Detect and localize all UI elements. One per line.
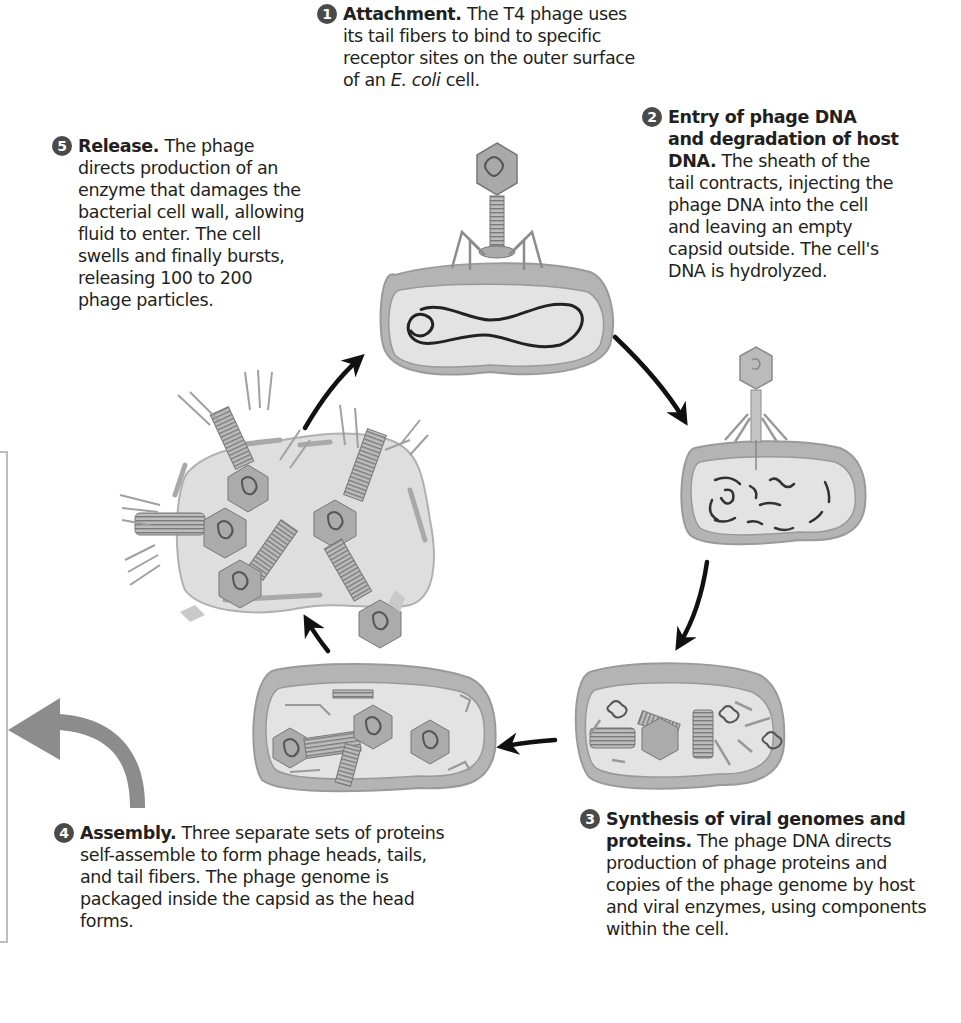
cell-attachment <box>381 143 614 375</box>
cell-assembly <box>253 664 495 791</box>
step-badge-2: 2 <box>642 107 662 127</box>
phage-attached-icon <box>452 143 542 270</box>
step-badge-1: 1 <box>317 4 337 24</box>
cell-entry <box>681 347 865 544</box>
big-curved-arrow-icon <box>8 698 145 808</box>
step-badge-4: 4 <box>54 823 74 843</box>
e-coli-term: E. coli <box>391 70 441 90</box>
caption-entry: 2 Entry of phage DNA and degradation of … <box>668 106 961 282</box>
step-badge-5: 5 <box>52 136 72 156</box>
arrow-3-to-4 <box>505 740 555 746</box>
arrow-5-to-1 <box>305 360 358 428</box>
caption-assembly: 4 Assembly. Three separate sets of prote… <box>80 822 490 932</box>
arrow-1-to-2 <box>615 337 683 418</box>
side-bracket <box>0 451 8 943</box>
arrow-4-to-5 <box>308 622 328 651</box>
caption-synthesis: 3 Synthesis of viral genomes and protein… <box>606 808 961 940</box>
caption-release: 5 Release. The phage directs production … <box>78 135 338 311</box>
cell-release <box>120 370 434 648</box>
arrow-2-to-3 <box>680 562 707 643</box>
step-title-attachment: Attachment. <box>343 4 462 24</box>
cell-synthesis <box>576 663 785 788</box>
caption-attachment: 1 Attachment. The T4 phage uses its tail… <box>343 3 673 91</box>
step-badge-3: 3 <box>580 809 600 829</box>
